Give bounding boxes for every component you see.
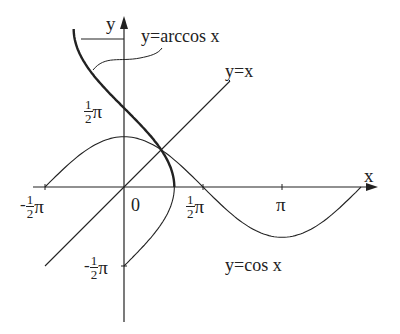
graph-figure: y x y=arccos x y=x y=cos x 0 12π -12π 12…: [0, 0, 400, 334]
x-tick-neg-half-pi-label: -12π: [20, 193, 44, 220]
y-tick-half-pi-label: 12π: [84, 98, 102, 125]
x-tick-half-pi-label: 12π: [186, 193, 204, 220]
x-tick-pi-label: π: [276, 195, 286, 214]
arccos-leader-line: [93, 48, 162, 70]
identity-label: y=x: [225, 62, 253, 80]
x-axis-label: x: [364, 166, 374, 185]
cos-label: y=cos x: [225, 256, 282, 274]
y-axis-arrow-icon: [120, 16, 128, 29]
y-axis-label: y: [106, 14, 116, 33]
plot-canvas: [0, 0, 400, 334]
arccos-label: y=arccos x: [141, 27, 220, 45]
origin-label: 0: [131, 196, 140, 214]
line-y-equals-x: [45, 81, 230, 266]
y-tick-neg-half-pi-label: -12π: [84, 254, 108, 281]
